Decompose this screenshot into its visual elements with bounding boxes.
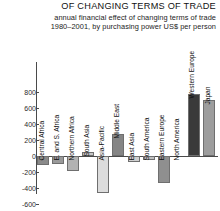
bar-category-label: Middle East: [114, 104, 121, 139]
y-axis-tick-label: -200: [22, 169, 36, 176]
bar-group: E. and S. Africa: [52, 0, 64, 211]
bar-series: Central AfricaE. and S. AfricaNorthern A…: [37, 0, 218, 211]
bar: [203, 100, 215, 156]
bar-group: Asia-Pacific: [97, 0, 109, 211]
bar-category-label: North America: [175, 119, 182, 161]
bar-group: Central Africa: [37, 0, 49, 211]
bar-group: Eastern Europe: [158, 0, 170, 211]
y-axis-tick-label: 800: [24, 89, 36, 96]
bar: [188, 94, 200, 156]
bar-group: Japan: [203, 0, 215, 211]
bar-category-label: Japan: [205, 87, 212, 105]
bar-category-label: South Asia: [84, 125, 91, 157]
plot-area: 8006004002000-200-400-600 Central Africa…: [0, 0, 220, 211]
bar-category-label: East Asia: [130, 133, 137, 161]
bar-group: Middle East: [112, 0, 124, 211]
bar-group: South Asia: [82, 0, 94, 211]
terms-of-trade-chart: OF CHANGING TERMS OF TRADE annual financ…: [0, 0, 220, 211]
y-axis-tick-label: 600: [24, 105, 36, 112]
bar-group: South America: [143, 0, 155, 211]
bar-category-label: South America: [145, 117, 152, 160]
bar-group: East Asia: [128, 0, 140, 211]
bar-category-label: Northern Africa: [69, 116, 76, 160]
bar-category-label: Central Africa: [39, 121, 46, 161]
bar-category-label: Eastern Europe: [160, 114, 167, 160]
bar-group: Northern Africa: [67, 0, 79, 211]
bar-category-label: Western Europe: [190, 51, 197, 99]
y-axis-tick-label: 400: [24, 121, 36, 128]
y-axis-tick-label: -600: [22, 201, 36, 208]
bar-category-label: Asia-Pacific: [99, 126, 106, 161]
bar-group: Western Europe: [188, 0, 200, 211]
bar-group: North America: [173, 0, 185, 211]
y-axis-tick-label: 0: [32, 153, 36, 160]
bar: [97, 156, 109, 193]
y-axis-tick-label: 200: [24, 137, 36, 144]
y-axis-tick-label: -400: [22, 185, 36, 192]
bar-category-label: E. and S. Africa: [54, 115, 61, 161]
